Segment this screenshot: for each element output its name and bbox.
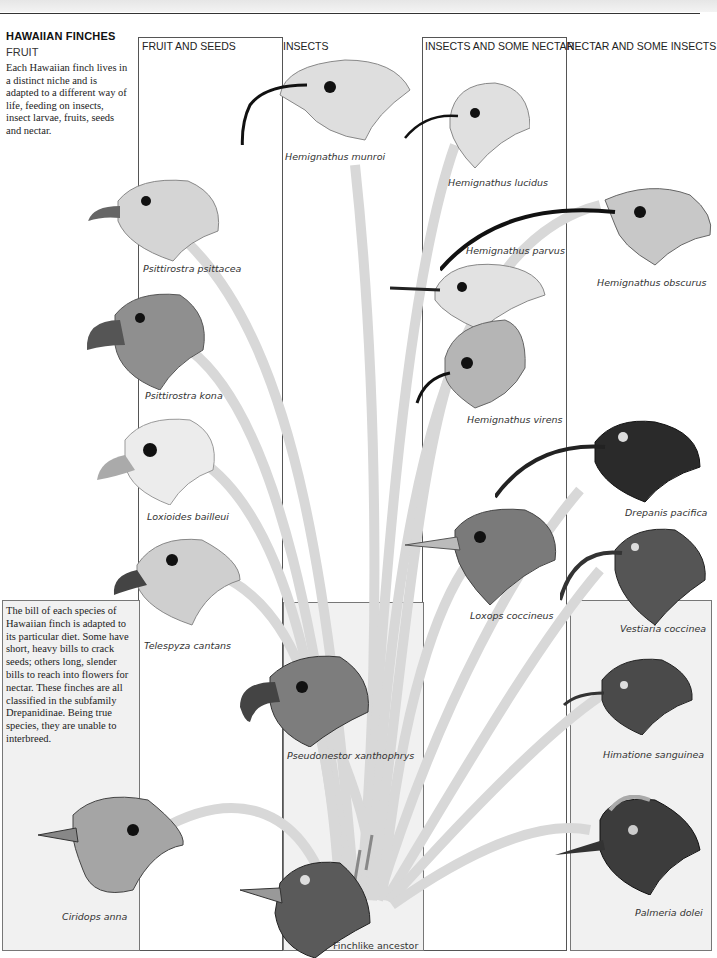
bird-head-loxioides-bailleui bbox=[95, 415, 220, 505]
bird-head-drepanis-pacifica bbox=[495, 412, 705, 507]
species-label-himatione-sanguinea: Himatione sanguinea bbox=[603, 749, 704, 760]
bird-head-hemignathus-lucidus bbox=[400, 78, 530, 168]
bird-head-psittirostra-kona bbox=[85, 290, 210, 390]
ancestor-label: Finchlike ancestor bbox=[333, 940, 418, 951]
species-label-drepanis-pacifica: Drepanis pacifica bbox=[625, 507, 707, 518]
species-label-vestiaria-coccinea: Vestiaria coccinea bbox=[620, 623, 706, 634]
bird-head-ciridops-anna bbox=[38, 790, 188, 900]
species-label-psittirostra-kona: Psittirostra kona bbox=[145, 390, 223, 401]
species-label-palmeria-dolei: Palmeria dolei bbox=[635, 907, 703, 918]
species-label-ciridops-anna: Ciridops anna bbox=[62, 911, 127, 922]
bird-head-vestiaria-coccinea bbox=[560, 525, 710, 625]
species-label-pseudonestor-xanthophrys: Pseudonestor xanthophrys bbox=[287, 750, 414, 761]
species-label-hemignathus-parvus: Hemignathus parvus bbox=[466, 245, 565, 256]
species-label-hemignathus-virens: Hemignathus virens bbox=[467, 414, 562, 425]
species-label-psittirostra-psittacea: Psittirostra psittacea bbox=[143, 263, 241, 274]
bird-head-loxops-coccineus bbox=[405, 505, 560, 605]
species-label-telespyza-cantans: Telespyza cantans bbox=[144, 640, 231, 651]
bird-head-himatione-sanguinea bbox=[562, 655, 697, 735]
bird-head-hemignathus-virens bbox=[415, 318, 530, 413]
species-label-hemignathus-obscurus: Hemignathus obscurus bbox=[597, 277, 706, 288]
bird-head-pseudonestor-xanthophrys bbox=[240, 652, 375, 747]
species-label-hemignathus-munroi: Hemignathus munroi bbox=[285, 151, 385, 162]
species-label-loxioides-bailleui: Loxioides bailleui bbox=[147, 511, 229, 522]
species-label-loxops-coccineus: Loxops coccineus bbox=[470, 610, 554, 621]
species-label-hemignathus-lucidus: Hemignathus lucidus bbox=[448, 177, 548, 188]
bird-head-palmeria-dolei bbox=[555, 795, 705, 895]
bird-head-psittirostra-psittacea bbox=[88, 176, 228, 266]
bird-head-telespyza-cantans bbox=[112, 535, 242, 630]
